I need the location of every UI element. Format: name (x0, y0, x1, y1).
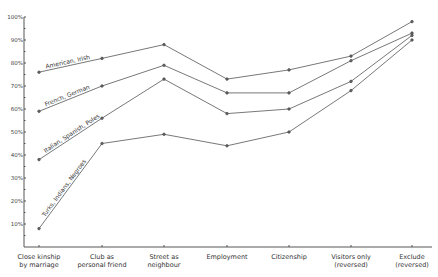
data-point-marker (101, 85, 104, 88)
series-label: American, Irish (45, 53, 91, 70)
data-point-marker (163, 78, 166, 81)
y-tick-label: 70% (11, 83, 23, 89)
data-point-marker (226, 112, 229, 115)
series-label: French, German (44, 83, 91, 107)
x-category-label: by marriage (19, 261, 59, 269)
x-category-label: Employment (206, 253, 248, 261)
y-tick-label: 90% (11, 37, 23, 43)
data-point-marker (350, 80, 353, 83)
series-line (39, 33, 412, 111)
data-point-marker (226, 92, 229, 95)
y-tick-label: 100% (7, 14, 23, 20)
y-tick-label: 50% (11, 129, 23, 135)
data-point-marker (288, 131, 291, 134)
series-group (38, 20, 414, 230)
data-point-marker (411, 34, 414, 37)
series-french-german (38, 32, 414, 113)
series-labels: American, IrishFrench, GermanItalian, Sp… (40, 53, 102, 219)
y-tick-label: 30% (11, 175, 23, 181)
data-point-marker (101, 142, 104, 145)
line-chart: 10%20%30%40%50%60%70%80%90%100% Close ki… (0, 0, 438, 277)
data-point-marker (101, 117, 104, 120)
data-point-marker (38, 158, 41, 161)
x-category-label: (reversed) (395, 261, 429, 269)
x-category-label: Visitors only (331, 253, 371, 261)
data-point-marker (350, 55, 353, 58)
x-category-label: Citizenship (271, 253, 307, 261)
data-point-marker (350, 59, 353, 62)
x-category-label: Close kinship (18, 253, 61, 261)
data-point-marker (350, 89, 353, 92)
y-axis-ticks: 10%20%30%40%50%60%70%80%90%100% (7, 14, 26, 236)
x-category-label: personal friend (77, 261, 126, 269)
series-line (39, 40, 412, 229)
series-line (39, 35, 412, 159)
y-tick-label: 60% (11, 106, 23, 112)
data-point-marker (226, 78, 229, 81)
x-category-label: Street as (149, 253, 179, 261)
x-axis-ticks: Close kinshipby marriageClub aspersonal … (18, 245, 429, 269)
y-tick-label: 80% (11, 60, 23, 66)
series-label: Italian, Spanish, Poles (42, 112, 101, 155)
data-point-marker (411, 20, 414, 23)
series-label: Turks, Indians, Negroes (40, 158, 88, 220)
data-point-marker (101, 57, 104, 60)
data-point-marker (288, 69, 291, 72)
x-category-label: Club as (90, 253, 115, 261)
data-point-marker (38, 71, 41, 74)
data-point-marker (288, 108, 291, 111)
y-tick-label: 40% (11, 152, 23, 158)
data-point-marker (163, 43, 166, 46)
series-american-irish (38, 20, 414, 80)
data-point-marker (163, 64, 166, 67)
x-category-label: (reversed) (334, 261, 368, 269)
data-point-marker (38, 227, 41, 230)
y-tick-label: 20% (11, 198, 23, 204)
data-point-marker (411, 39, 414, 42)
x-category-label: Exclude (399, 253, 424, 261)
y-tick-label: 10% (11, 221, 23, 227)
data-point-marker (288, 92, 291, 95)
data-point-marker (38, 110, 41, 113)
data-point-marker (163, 133, 166, 136)
data-point-marker (226, 145, 229, 148)
series-turks-indians-negroes (38, 39, 414, 230)
x-category-label: neighbour (147, 261, 180, 269)
series-line (39, 22, 412, 80)
